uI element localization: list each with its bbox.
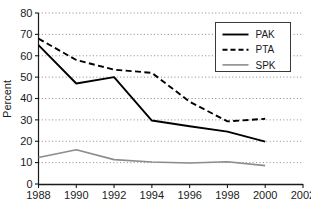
x-tick-label-1990: 1990 xyxy=(64,189,88,201)
y-tick-label-0: 0 xyxy=(26,178,32,190)
legend-label-pta: PTA xyxy=(256,44,275,55)
y-tick-label-50: 50 xyxy=(20,71,32,83)
x-tick-label-2002: 2002 xyxy=(291,189,311,201)
x-tick-label-1988: 1988 xyxy=(26,189,50,201)
x-tick-label-1992: 1992 xyxy=(102,189,126,201)
chart-canvas: 01020304050607080 1988199019921994199619… xyxy=(0,0,311,210)
y-tick-label-70: 70 xyxy=(20,28,32,40)
y-tick-label-40: 40 xyxy=(20,92,32,104)
chart-legend: PAKPTASPK xyxy=(216,23,291,72)
legend-label-spk: SPK xyxy=(256,60,276,71)
x-tick-label-1996: 1996 xyxy=(177,189,201,201)
x-tick-label-1998: 1998 xyxy=(215,189,239,201)
y-tick-label-30: 30 xyxy=(20,114,32,126)
x-tick-label-1994: 1994 xyxy=(140,189,164,201)
y-tick-label-80: 80 xyxy=(20,7,32,19)
y-tick-label-10: 10 xyxy=(20,156,32,168)
y-tick-label-20: 20 xyxy=(20,135,32,147)
y-tick-group: 01020304050607080 xyxy=(20,7,38,190)
y-tick-label-60: 60 xyxy=(20,50,32,62)
y-axis-title: Percent xyxy=(1,80,13,118)
x-tick-label-2000: 2000 xyxy=(253,189,277,201)
legend-label-pak: PAK xyxy=(256,29,276,40)
line-chart: 01020304050607080 1988199019921994199619… xyxy=(0,0,311,210)
